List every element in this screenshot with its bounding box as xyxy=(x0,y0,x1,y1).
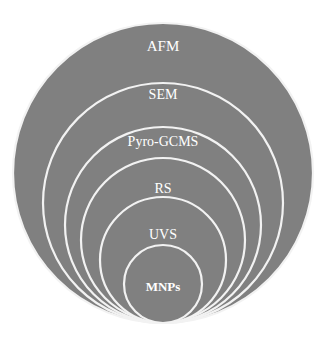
ring-label-afm: AFM xyxy=(147,38,180,54)
figure-root: AFM SEM Pyro-GCMS RS UVS MNPs xyxy=(0,0,328,344)
ring-label-sem: SEM xyxy=(149,87,178,102)
ring-label-rs: RS xyxy=(154,181,171,196)
ring-label-pyro-gcms: Pyro-GCMS xyxy=(128,134,199,149)
ring-label-uvs: UVS xyxy=(149,227,177,242)
ring-label-mnps: MNPs xyxy=(146,279,181,294)
nested-circles-diagram: AFM SEM Pyro-GCMS RS UVS MNPs xyxy=(0,0,328,344)
